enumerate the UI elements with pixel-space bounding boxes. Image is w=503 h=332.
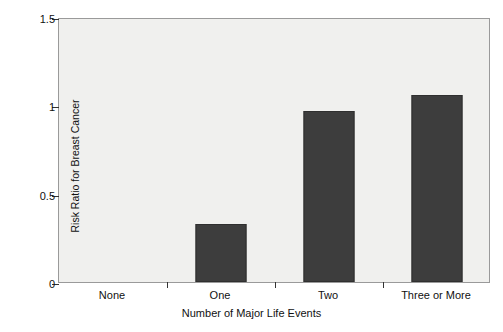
bar-chart-figure: 00.511.5 Risk Ratio for Breast Cancer Nu… [0, 0, 503, 332]
bar [196, 224, 247, 282]
bar-slot [275, 19, 383, 282]
y-axis-title: Risk Ratio for Breast Cancer [69, 99, 81, 232]
x-tick-label: None [58, 289, 166, 301]
x-tick-label: Three or More [382, 289, 490, 301]
y-tick-label: 1.5 [40, 13, 55, 25]
x-tick-mark [383, 282, 384, 288]
x-tick-mark [275, 282, 276, 288]
bars-layer [59, 19, 489, 282]
y-tick-label: 0.5 [40, 190, 55, 202]
bar-slot [383, 19, 491, 282]
x-tick-mark [167, 282, 168, 288]
y-tick-label: 0 [49, 278, 55, 290]
bar [304, 111, 355, 282]
bar-slot [167, 19, 275, 282]
bar [412, 95, 463, 282]
plot-area: 00.511.5 [58, 18, 490, 283]
x-axis-title: Number of Major Life Events [0, 307, 503, 319]
y-tick-label: 1 [49, 101, 55, 113]
x-tick-label: Two [274, 289, 382, 301]
x-tick-label: One [166, 289, 274, 301]
